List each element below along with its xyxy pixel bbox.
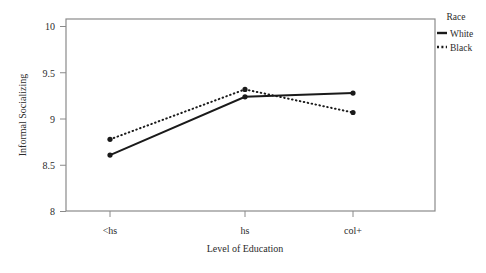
y-tick-label-8: 8 bbox=[50, 206, 55, 217]
data-point-white-col+ bbox=[350, 91, 355, 96]
y-tick-label-10: 10 bbox=[45, 21, 55, 32]
y-tick-label-9: 9 bbox=[50, 114, 55, 125]
x-tick-label-hs: hs bbox=[241, 225, 250, 236]
y-axis-title: Informal Socializing bbox=[17, 74, 28, 156]
line-chart: 10 9.5 9 8.5 8 Informal Socializing <hs … bbox=[0, 0, 486, 273]
legend-label-black: Black bbox=[450, 43, 472, 53]
data-point-white-hs bbox=[242, 94, 247, 99]
legend-title: Race bbox=[447, 12, 466, 22]
y-tick-label-9-5: 9.5 bbox=[43, 68, 56, 79]
chart-figure: 10 9.5 9 8.5 8 Informal Socializing <hs … bbox=[0, 0, 486, 273]
data-point-black-hs bbox=[242, 87, 247, 92]
y-tick-label-8-5: 8.5 bbox=[43, 160, 56, 171]
legend-label-white: White bbox=[450, 29, 473, 39]
x-axis-title: Level of Education bbox=[207, 243, 284, 254]
x-tick-label-col-plus: col+ bbox=[344, 225, 362, 236]
data-point-white-<hs bbox=[107, 152, 112, 157]
data-point-black-<hs bbox=[107, 137, 112, 142]
x-tick-label-lt-hs: <hs bbox=[103, 225, 118, 236]
data-point-black-col+ bbox=[350, 110, 355, 115]
